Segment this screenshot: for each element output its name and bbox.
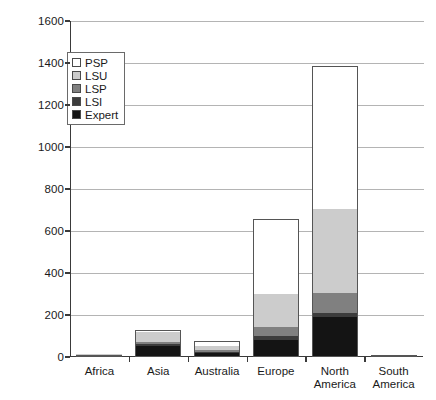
legend-item-label: LSU xyxy=(85,70,107,82)
x-tick-mark xyxy=(247,357,248,362)
bar-segment-psp xyxy=(253,219,299,293)
x-tick-mark xyxy=(364,357,365,362)
bar-segment-expert xyxy=(312,317,358,357)
bar-segment-lsp xyxy=(312,293,358,313)
bar-segment-psp xyxy=(312,66,358,209)
legend: PSPLSULSPLSIExpert xyxy=(67,52,125,125)
y-tick-label: 1000 xyxy=(38,141,64,153)
bar-segment-expert xyxy=(76,356,122,357)
y-tick-label: 1200 xyxy=(38,99,64,111)
y-tick-mark xyxy=(65,272,70,273)
bar-segment-lsu xyxy=(253,294,299,328)
bar-south-america xyxy=(371,356,417,357)
bar-asia xyxy=(135,330,181,357)
x-tick-label-line1: South xyxy=(349,365,436,378)
y-tick-label: 200 xyxy=(45,309,65,321)
bar-segment-lsp xyxy=(253,327,299,335)
y-tick-mark xyxy=(65,230,70,231)
y-tick-mark xyxy=(65,104,70,105)
bar-segment-lsu xyxy=(312,209,358,293)
legend-item-lsu[interactable]: LSU xyxy=(72,69,120,82)
legend-swatch-icon xyxy=(72,84,81,93)
stacked-bar-chart: 02004006008001000120014001600 AfricaAsia… xyxy=(0,0,436,400)
legend-swatch-icon xyxy=(72,97,81,106)
x-tick-mark xyxy=(305,357,306,362)
legend-item-lsp[interactable]: LSP xyxy=(72,82,120,95)
bar-africa xyxy=(76,354,122,357)
legend-swatch-icon xyxy=(72,71,81,80)
y-tick-label: 0 xyxy=(58,351,65,363)
legend-item-label: PSP xyxy=(85,57,108,69)
y-tick-mark xyxy=(65,20,70,21)
y-tick-mark xyxy=(65,314,70,315)
y-tick-label: 1400 xyxy=(38,57,64,69)
legend-item-expert[interactable]: Expert xyxy=(72,108,120,121)
legend-item-label: Expert xyxy=(85,109,118,121)
bar-segment-lsu xyxy=(135,332,181,342)
x-tick-mark xyxy=(129,357,130,362)
y-tick-mark xyxy=(65,356,70,357)
legend-item-lsi[interactable]: LSI xyxy=(72,95,120,108)
y-tick-mark xyxy=(65,62,70,63)
legend-item-label: LSI xyxy=(85,96,102,108)
bar-north-america xyxy=(312,66,358,357)
x-tick-mark xyxy=(188,357,189,362)
bar-segment-expert xyxy=(371,356,417,357)
legend-swatch-icon xyxy=(72,58,81,67)
y-axis: 02004006008001000120014001600 xyxy=(0,0,64,400)
y-tick-label: 800 xyxy=(45,183,65,195)
x-tick-label: SouthAmerica xyxy=(349,365,436,390)
y-tick-label: 600 xyxy=(45,225,65,237)
legend-swatch-icon xyxy=(72,110,81,119)
bar-australia xyxy=(194,341,240,357)
y-tick-mark xyxy=(65,146,70,147)
bar-europe xyxy=(253,219,299,357)
bar-segment-expert xyxy=(194,353,240,357)
bar-segment-expert xyxy=(253,340,299,357)
y-tick-mark xyxy=(65,188,70,189)
bar-segment-expert xyxy=(135,346,181,357)
x-tick-label-line2: America xyxy=(349,378,436,391)
legend-item-psp[interactable]: PSP xyxy=(72,56,120,69)
legend-item-label: LSP xyxy=(85,83,107,95)
y-tick-label: 400 xyxy=(45,267,65,279)
y-tick-label: 1600 xyxy=(38,15,64,27)
